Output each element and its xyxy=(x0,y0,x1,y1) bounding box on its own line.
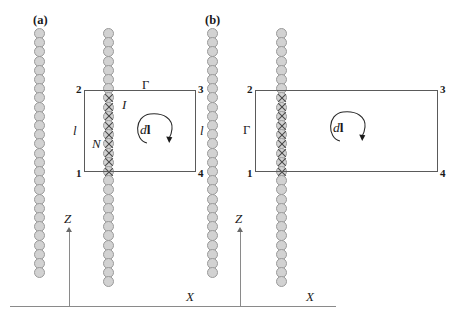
panel-a-dl-label: dl xyxy=(140,123,151,137)
panel-b-z-axis-label: Z xyxy=(235,212,242,225)
panel-b-label: (b) xyxy=(205,13,220,28)
panel-a-current-label: I xyxy=(122,98,126,111)
panel-b-corner-label-2: 2 xyxy=(247,84,253,95)
panel-a-left-bead-column xyxy=(34,28,47,276)
panel-b: (b) 2 3 1 4 Γ dl Z X xyxy=(226,0,452,323)
panel-a-z-axis-arrowhead xyxy=(66,227,72,232)
panel-b-dl-label: dl xyxy=(333,121,344,135)
panel-a-side-label-right: l xyxy=(200,124,204,137)
panel-a: (a) 2 3 1 4 Γ l l I N dl Z X xyxy=(0,0,226,323)
panel-a-dl-l: l xyxy=(147,122,151,137)
panel-b-left-bead-column xyxy=(207,28,220,276)
bead xyxy=(34,267,45,278)
panel-a-dl-d: d xyxy=(140,122,147,137)
panel-b-corner-label-4: 4 xyxy=(440,168,446,179)
panel-a-corner-label-4: 4 xyxy=(198,168,204,179)
panel-a-corner-label-1: 1 xyxy=(76,168,82,179)
panel-a-turns-label: N xyxy=(92,137,101,150)
panel-a-corner-label-2: 2 xyxy=(76,84,82,95)
panel-a-label: (a) xyxy=(33,13,48,28)
panel-a-side-label-left: l xyxy=(73,124,77,137)
panel-a-z-axis xyxy=(69,231,70,307)
panel-a-contour-label-gamma: Γ xyxy=(142,79,149,92)
bead xyxy=(103,276,114,287)
panel-b-z-axis-arrowhead xyxy=(237,227,243,232)
bead xyxy=(276,276,287,287)
panel-b-corner-label-1: 1 xyxy=(247,168,253,179)
panel-b-x-axis-label: X xyxy=(306,290,314,303)
panel-b-corner-label-3: 3 xyxy=(440,84,446,95)
panel-b-contour-label-gamma: Γ xyxy=(243,124,250,137)
panel-b-dl-d: d xyxy=(333,120,340,135)
panel-b-dl-l: l xyxy=(340,120,344,135)
panel-a-x-axis-label: X xyxy=(186,290,194,303)
panel-a-corner-label-3: 3 xyxy=(198,84,204,95)
panel-b-x-axis xyxy=(182,306,336,307)
panel-b-z-axis xyxy=(240,231,241,307)
panel-a-z-axis-label: Z xyxy=(64,212,71,225)
